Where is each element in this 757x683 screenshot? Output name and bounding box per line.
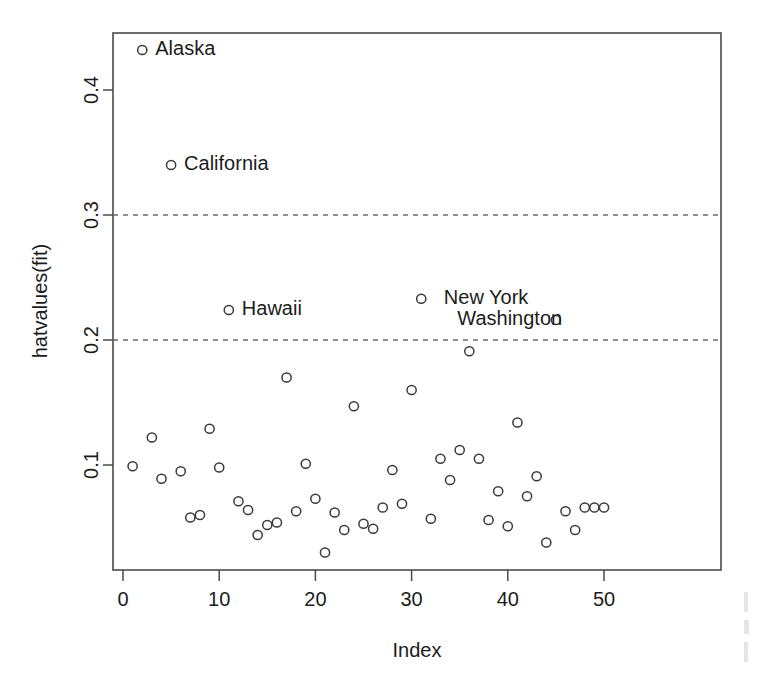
- x-axis-title: Index: [393, 639, 442, 661]
- x-tick-label: 0: [117, 588, 128, 610]
- y-tick-label: 0.4: [80, 76, 102, 104]
- scatter-plot-figure: 0.10.20.30.4 01020304050 AlaskaCaliforni…: [0, 0, 757, 683]
- x-tick-label: 10: [208, 588, 230, 610]
- scan-artifact-bottom: [744, 642, 748, 662]
- scan-artifact-middle: [744, 620, 749, 634]
- x-tick-label: 30: [400, 588, 422, 610]
- y-tick-label: 0.1: [80, 451, 102, 479]
- scan-artifact-top: [744, 592, 748, 612]
- point-label-alaska: Alaska: [155, 37, 216, 59]
- point-label-california: California: [184, 152, 269, 174]
- point-label-washington: Washington: [457, 307, 562, 329]
- x-tick-label: 20: [304, 588, 326, 610]
- point-label-new-york: New York: [444, 286, 529, 308]
- y-axis-title: hatvalues(fit): [29, 244, 51, 359]
- plot-canvas: 0.10.20.30.4 01020304050 AlaskaCaliforni…: [0, 0, 757, 683]
- x-tick-label: 50: [593, 588, 615, 610]
- y-tick-label: 0.3: [80, 201, 102, 229]
- point-label-hawaii: Hawaii: [242, 297, 302, 319]
- x-tick-label: 40: [497, 588, 519, 610]
- y-tick-label: 0.2: [80, 326, 102, 354]
